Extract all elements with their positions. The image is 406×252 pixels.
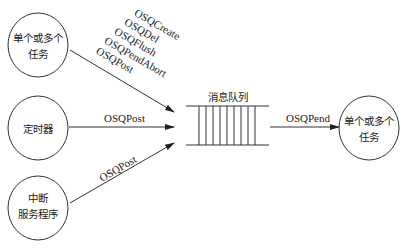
- label-osqpost-timer: OSQPost: [104, 112, 145, 124]
- tasks-left-node: 单个或多个 任务: [8, 13, 68, 77]
- tasks-to-queue-labels: OSQCreate OSQDel OSQFlush OSQPendAbort O…: [94, 0, 188, 91]
- message-queue: 消息队列: [186, 91, 269, 145]
- label-osqpost-isr: OSQPost: [97, 153, 138, 184]
- isr-to-queue-arrow: [70, 143, 174, 203]
- isr-line1: 中断: [28, 192, 49, 204]
- timer-label: 定时器: [23, 123, 54, 135]
- tasks-right-line2: 任务: [359, 131, 380, 143]
- isr-to-queue-label: OSQPost: [97, 153, 138, 184]
- queue-label: 消息队列: [208, 91, 248, 103]
- tasks-right-line1: 单个或多个: [344, 115, 395, 127]
- message-queue-diagram: 单个或多个 任务 定时器 中断 服务程序 OSQCreate OSQDel OS…: [0, 0, 406, 252]
- timer-node: 定时器: [8, 96, 68, 160]
- label-osqpend: OSQPend: [286, 112, 331, 124]
- isr-line2: 服务程序: [18, 208, 58, 220]
- tasks-left-line2: 任务: [28, 48, 49, 60]
- tasks-left-line1: 单个或多个: [13, 32, 64, 44]
- isr-node: 中断 服务程序: [8, 176, 68, 240]
- tasks-right-node: 单个或多个 任务: [339, 96, 399, 160]
